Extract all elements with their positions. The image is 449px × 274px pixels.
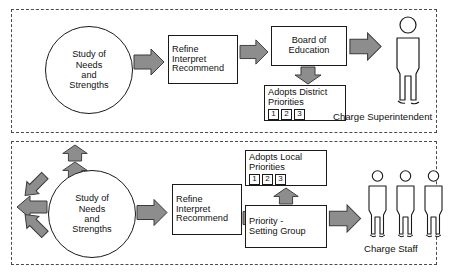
adopts-district-line-2: Priorities	[265, 98, 345, 108]
priority-line-1: Priority -	[249, 217, 326, 227]
arrow-study-to-refine-district	[134, 49, 164, 75]
priority-chip-3: 3	[275, 174, 286, 185]
circle2-line-1: Study of	[75, 193, 109, 203]
circle2-line-4: Strengths	[72, 224, 111, 234]
arrow-refine-to-board	[240, 39, 268, 65]
circle-line-1: Study of	[72, 49, 106, 59]
circle2-line-3: and	[84, 214, 99, 224]
adopts-local-line-2: Priorities	[246, 163, 326, 173]
priority-chips-local: 1 2 3	[246, 174, 326, 185]
arrow-board-to-adopts-district	[295, 67, 321, 84]
refine2-line-3: Recommend	[176, 214, 241, 224]
node-study-of-needs-and-strengths-district: Study of Needs and Strengths	[45, 26, 133, 114]
priority-chip-1: 1	[268, 109, 279, 120]
node-adopts-local-priorities: Adopts Local Priorities 1 2 3	[245, 150, 327, 186]
caption-charge-staff: Charge Staff	[364, 244, 418, 254]
node-board-of-education: Board of Education	[271, 26, 347, 66]
arrow-input-up-outer	[62, 145, 88, 161]
priority-chip-3: 3	[294, 109, 305, 120]
arrow-priority-to-staff	[329, 205, 361, 232]
circle-line-2: Needs	[76, 60, 103, 70]
arrow-study-to-refine-school	[137, 199, 167, 226]
caption-charge-superintendent: Charge Superintendent	[333, 112, 432, 122]
arrow-priority-to-adopts-local	[273, 188, 299, 204]
circle2-line-2: Needs	[79, 204, 106, 214]
node-refine-interpret-recommend-district: Refine Interpret Recommend	[168, 35, 238, 84]
person-icon-staff-2	[392, 170, 419, 242]
priority-line-2: Setting Group	[249, 227, 326, 237]
arrow-board-to-superintendent	[349, 33, 382, 60]
board-line-2: Education	[272, 46, 346, 56]
person-icon-staff-1	[364, 170, 391, 242]
person-icon-staff-3	[420, 170, 447, 242]
person-icon-superintendent	[389, 16, 427, 108]
priority-chip-2: 2	[262, 174, 273, 185]
circle-line-4: Strengths	[69, 80, 108, 90]
priority-chip-1: 1	[249, 174, 260, 185]
node-refine-interpret-recommend-school: Refine Interpret Recommend	[172, 184, 242, 235]
node-priority-setting-group: Priority - Setting Group	[245, 205, 327, 248]
diagram-canvas: Study of Needs and Strengths Refine Inte…	[0, 0, 449, 274]
node-study-of-needs-and-strengths-school: Study of Needs and Strengths	[48, 170, 136, 258]
refine-line-3: Recommend	[172, 64, 237, 74]
circle-line-3: and	[81, 70, 96, 80]
priority-chip-2: 2	[281, 109, 292, 120]
